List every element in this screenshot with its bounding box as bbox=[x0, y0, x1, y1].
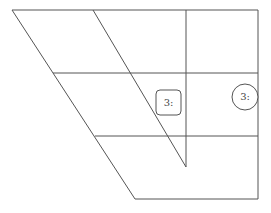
square-node-label: 3: bbox=[156, 98, 181, 108]
diagram-canvas bbox=[0, 0, 271, 213]
circle-node-label: 3: bbox=[232, 92, 258, 102]
left-diagonal bbox=[12, 10, 135, 199]
inner-diagonal bbox=[93, 10, 186, 167]
